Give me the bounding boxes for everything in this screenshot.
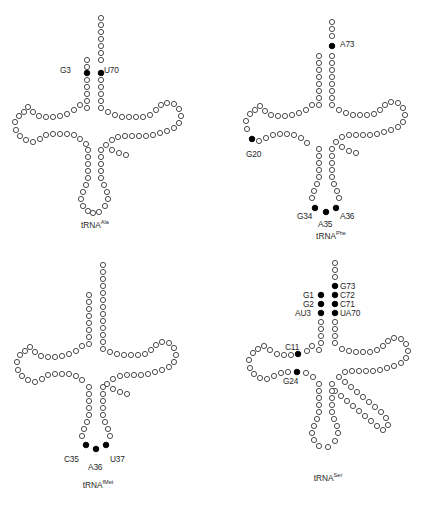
long-variable-arm	[332, 374, 390, 432]
residue-c11	[295, 351, 301, 357]
trna-figure: G3 U70 tRNAAla	[0, 0, 426, 506]
d-arm	[14, 343, 84, 384]
panel-trna-phe: A73 G20 G34 A35 A36 tRNAPhe	[213, 0, 426, 253]
acceptor-stem-left-strand	[316, 292, 323, 352]
residue-ua70	[332, 310, 338, 316]
panel-trna-fmet: C35 A36 U37 tRNAfMet	[0, 253, 213, 506]
residue-label-c11: C11	[285, 343, 299, 352]
residue-g2	[318, 301, 324, 307]
residue-label-a35: A35	[318, 220, 332, 229]
trna-fmet-structure	[0, 253, 213, 506]
anticodon-stem-right	[93, 384, 112, 451]
variable-loop	[333, 139, 358, 155]
acceptor-stem-left-strand	[86, 292, 91, 346]
acceptor-stem-right-strand	[332, 260, 338, 345]
anticodon-stem-right	[323, 146, 341, 214]
residue-label-a73: A73	[340, 40, 354, 49]
trna-ser-name-base: tRNA	[314, 473, 334, 483]
d-arm	[246, 343, 315, 381]
residue-a73	[329, 43, 335, 49]
residue-label-au3: AU3	[295, 309, 311, 318]
trna-ala-name: tRNAAla	[55, 221, 135, 230]
acceptor-stem-right-strand	[98, 15, 104, 110]
residue-label-g34: G34	[297, 212, 312, 221]
residue-c35	[83, 442, 89, 448]
trna-ala-name-base: tRNA	[81, 220, 101, 230]
caption-fragment	[0, 500, 426, 506]
residue-g3	[84, 70, 90, 76]
residue-label-g24: G24	[283, 377, 298, 386]
residue-g24	[294, 369, 300, 375]
t-arm	[339, 335, 410, 374]
residue-g20	[249, 136, 255, 142]
trna-phe-structure	[213, 0, 426, 253]
acceptor-stem-right-strand	[329, 19, 335, 107]
t-arm	[105, 100, 183, 142]
panel-trna-ser: G73 G1 C72 G2 C71 AU3 UA70 C11 G24 tRNAS…	[213, 253, 426, 506]
d-arm	[243, 102, 314, 145]
trna-fmet-name-sup: fMet	[102, 479, 113, 485]
trna-ala-name-sup: Ala	[101, 219, 109, 225]
residue-label-c35: C35	[64, 455, 79, 464]
anticodon-stem-left	[78, 147, 90, 213]
residue-label-g3: G3	[60, 66, 71, 75]
trna-ser-name: tRNASer	[288, 474, 368, 483]
trna-ala-structure	[0, 0, 213, 253]
trna-phe-name-sup: Phe	[336, 230, 346, 236]
anticodon-stem-left	[309, 146, 321, 210]
trna-fmet-name-base: tRNA	[83, 480, 103, 490]
residue-u37	[103, 442, 109, 448]
acceptor-stem-left-strand	[316, 53, 321, 107]
t-arm	[336, 99, 407, 139]
anticodon-stem-left	[79, 384, 91, 447]
variable-loop	[104, 381, 129, 396]
residue-c71	[332, 301, 338, 307]
residue-label-g20: G20	[246, 150, 261, 159]
trna-phe-name-base: tRNA	[316, 231, 336, 241]
acceptor-stem-left-strand	[84, 57, 90, 110]
residue-a36	[333, 205, 339, 211]
anticodon-stem-right	[90, 147, 110, 215]
acceptor-stem-right-strand	[100, 262, 105, 351]
t-arm	[107, 339, 178, 381]
residue-a35	[323, 209, 329, 215]
residue-c72	[332, 292, 338, 298]
residue-label-u37: U37	[110, 455, 125, 464]
anticodon-stem-left	[309, 381, 321, 448]
residue-g34	[312, 205, 318, 211]
trna-ser-name-sup: Ser	[334, 472, 343, 478]
panel-trna-ala: G3 U70 tRNAAla	[0, 0, 213, 253]
residue-u70	[98, 70, 104, 76]
anticodon-stem-right	[325, 381, 340, 449]
trna-ser-structure	[213, 253, 426, 506]
residue-label-ua70: UA70	[340, 309, 360, 318]
variable-loop	[103, 142, 128, 157]
residue-label-a36: A36	[88, 463, 102, 472]
residue-label-u70: U70	[104, 66, 119, 75]
residue-label-a36: A36	[340, 212, 354, 221]
residue-a36	[93, 446, 99, 452]
residue-au3	[318, 310, 324, 316]
trna-phe-name: tRNAPhe	[291, 232, 371, 241]
d-arm	[12, 102, 88, 146]
residue-g73	[332, 283, 338, 289]
trna-fmet-name: tRNAfMet	[58, 481, 138, 490]
residue-g1	[318, 292, 324, 298]
